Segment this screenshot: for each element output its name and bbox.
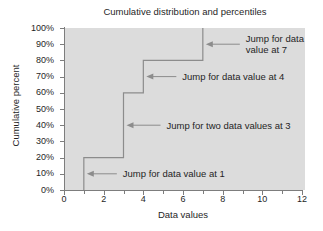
annotation-arrow-head — [206, 41, 213, 47]
annotation-arrow-head — [146, 74, 153, 80]
annotation-arrow-head — [87, 171, 94, 177]
annotation-jump-4: Jump for data value at 4 — [182, 71, 323, 83]
annotation-jump-7: Jump for data value at 7 — [246, 33, 320, 56]
annotation-jump-1: Jump for data value at 1 — [123, 168, 273, 180]
annotation-arrow-head — [127, 122, 134, 128]
annotation-jump-3: Jump for two data values at 3 — [167, 120, 323, 132]
chart-figure: Cumulative distribution and percentiles … — [0, 0, 323, 231]
